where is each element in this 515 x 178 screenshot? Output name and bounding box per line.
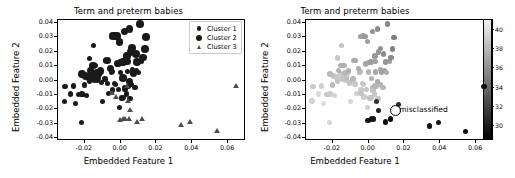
x-tickmark — [475, 140, 476, 143]
y-tickmark — [54, 51, 57, 52]
x-tickmark — [368, 140, 369, 143]
data-point-circle — [380, 85, 385, 90]
y-tickmark — [54, 36, 57, 37]
data-point-circle — [116, 87, 121, 92]
y-tickmark — [54, 65, 57, 66]
figure-canvas: Term and preterm babies -0.020.000.020.0… — [0, 0, 515, 178]
y-tickmark — [54, 137, 57, 138]
left-xaxis-title: Embedded Feature 1 — [0, 156, 257, 166]
data-point-triangle — [127, 107, 133, 112]
data-point-circle — [319, 83, 324, 88]
y-tickmark — [302, 65, 305, 66]
y-tickmark — [302, 94, 305, 95]
data-point-circle — [481, 84, 486, 89]
x-tickmark — [227, 140, 228, 143]
x-tickmark — [155, 140, 156, 143]
x-tick-label: 0.06 — [220, 144, 234, 152]
data-point-circle — [346, 68, 351, 73]
data-point-circle — [352, 81, 357, 86]
data-point-triangle — [187, 119, 193, 124]
data-point-triangle — [214, 128, 220, 133]
y-tick-label: 0.04 — [27, 18, 53, 26]
data-point-circle — [62, 99, 67, 104]
y-tickmark — [54, 80, 57, 81]
data-point-circle — [374, 99, 379, 104]
y-tick-label: 0.00 — [27, 76, 53, 84]
left-yaxis-title: Embedded Feature 2 — [11, 42, 21, 132]
y-tickmark — [302, 123, 305, 124]
legend-circle-icon — [193, 26, 205, 30]
legend-entry-label: Cluster 1 — [207, 25, 237, 33]
data-point-circle — [340, 76, 345, 81]
data-point-triangle — [139, 116, 145, 121]
y-tick-label: -0.02 — [275, 104, 301, 112]
y-tick-label: 0.00 — [275, 76, 301, 84]
colorbar-gradient — [483, 19, 492, 140]
data-point-circle — [82, 82, 87, 87]
y-tickmark — [302, 108, 305, 109]
data-point-circle — [142, 33, 150, 41]
data-point-circle — [309, 98, 314, 103]
y-tick-label: 0.01 — [27, 61, 53, 69]
left-scatter-panel: Term and preterm babies -0.020.000.020.0… — [0, 0, 257, 178]
right-yaxis-title: Embedded Feature 2 — [260, 42, 270, 132]
data-point-circle — [316, 91, 321, 96]
data-point-circle — [132, 85, 137, 90]
data-point-triangle — [233, 83, 239, 88]
legend-triangle-icon — [193, 45, 205, 49]
y-tickmark — [54, 123, 57, 124]
y-tickmark — [302, 36, 305, 37]
data-point-circle — [383, 119, 388, 124]
data-point-circle — [388, 116, 393, 121]
data-point-triangle — [125, 98, 131, 103]
x-tickmark — [120, 140, 121, 143]
y-tick-label: 0.03 — [27, 32, 53, 40]
x-tick-label: 0.04 — [432, 144, 446, 152]
y-tick-label: 0.03 — [275, 32, 301, 40]
colorbar-tick-label: 34 — [495, 83, 503, 90]
y-tickmark — [54, 94, 57, 95]
data-point-circle — [375, 26, 380, 31]
x-tickmark — [84, 140, 85, 143]
data-point-circle — [334, 74, 339, 79]
data-point-circle — [310, 84, 315, 89]
right-plot-title: Term and preterm babies — [235, 6, 475, 16]
y-tickmark — [54, 108, 57, 109]
y-tick-label: -0.02 — [27, 104, 53, 112]
right-plot-axes — [305, 19, 493, 140]
data-point-circle — [391, 35, 396, 40]
data-point-circle — [68, 91, 73, 96]
colorbar-tickmark — [492, 29, 494, 30]
y-tick-label: 0.01 — [275, 61, 301, 69]
x-tick-label: 0.06 — [468, 144, 482, 152]
data-point-circle — [330, 82, 335, 87]
data-point-circle — [427, 123, 432, 128]
data-point-circle — [364, 87, 369, 92]
data-point-circle — [372, 83, 377, 88]
data-point-circle — [352, 58, 357, 63]
x-tickmark — [403, 140, 404, 143]
y-tick-label: -0.04 — [27, 133, 53, 141]
x-tickmark — [191, 140, 192, 143]
y-tick-label: -0.01 — [275, 90, 301, 98]
y-tick-label: -0.01 — [27, 90, 53, 98]
x-tick-label: 0.02 — [148, 144, 162, 152]
data-point-circle — [378, 46, 383, 51]
colorbar-tickmark — [492, 87, 494, 88]
cluster-legend[interactable]: Cluster 1Cluster 2Cluster 3 — [189, 21, 242, 54]
left-plot-title: Term and preterm babies — [0, 6, 257, 16]
data-point-circle — [369, 76, 374, 81]
x-tick-label: -0.02 — [324, 144, 341, 152]
data-point-circle — [335, 55, 340, 60]
data-point-circle — [136, 20, 144, 28]
legend-circle-icon — [193, 35, 205, 41]
y-tickmark — [302, 22, 305, 23]
data-point-circle — [97, 67, 105, 75]
legend-entry-3[interactable]: Cluster 3 — [193, 42, 237, 51]
legend-entry-2[interactable]: Cluster 2 — [193, 33, 237, 42]
colorbar-tick-label: 36 — [495, 64, 503, 71]
y-tick-label: -0.03 — [275, 119, 301, 127]
legend-entry-1[interactable]: Cluster 1 — [193, 24, 237, 33]
colorbar-tick-label: 30 — [495, 122, 503, 129]
colorbar-tick-label: 38 — [495, 45, 503, 52]
